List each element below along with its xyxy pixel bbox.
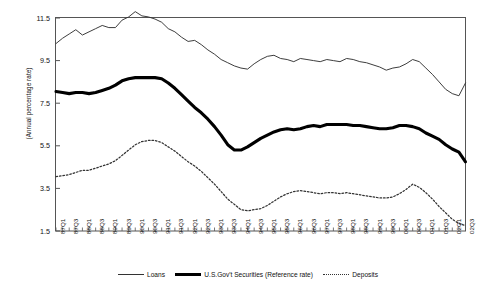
plot-area bbox=[0, 0, 482, 287]
x-axis-tick-label: 01Q1 bbox=[428, 219, 435, 234]
legend-swatch-loans bbox=[118, 271, 144, 278]
x-axis-tick-label: 91Q1 bbox=[164, 219, 171, 234]
legend-item-loans: Loans bbox=[118, 271, 165, 278]
x-axis-tick-label: 99Q1 bbox=[376, 219, 383, 234]
x-axis-tick-label: 88Q3 bbox=[98, 219, 105, 234]
x-axis-tick-label: 95Q1 bbox=[270, 219, 277, 234]
x-axis-tick-label: 00Q1 bbox=[402, 219, 409, 234]
y-axis-tick-label: 5.5 bbox=[24, 141, 50, 150]
y-axis-tick-label: 11.5 bbox=[24, 14, 50, 23]
legend-label-deposits: Deposits bbox=[352, 271, 378, 278]
x-axis-tick-label: 90Q1 bbox=[138, 219, 145, 234]
x-axis-tick-label: 01Q3 bbox=[442, 219, 449, 234]
x-axis-tick-label: 02Q1 bbox=[455, 219, 462, 234]
x-axis-tick-label: 93Q1 bbox=[217, 219, 224, 234]
y-axis-tick-label: 9.5 bbox=[24, 56, 50, 65]
legend-item-securities: U.S.Gov't Securities (Reference rate) bbox=[175, 271, 313, 278]
legend-label-loans: Loans bbox=[147, 271, 165, 278]
x-axis-tick-label: 87Q3 bbox=[72, 219, 79, 234]
x-axis-tick-label: 99Q3 bbox=[389, 219, 396, 234]
x-axis-tick-label: 91Q3 bbox=[177, 219, 184, 234]
chart-figure: (Annual percentage rate) 1.53.55.57.59.5… bbox=[0, 0, 482, 287]
x-axis-tick-label: 89Q3 bbox=[125, 219, 132, 234]
chart-legend: Loans U.S.Gov't Securities (Reference ra… bbox=[118, 266, 378, 282]
x-axis-tick-label: 00Q3 bbox=[415, 219, 422, 234]
x-axis-tick-label: 93Q3 bbox=[230, 219, 237, 234]
x-axis-tick-label: 98Q3 bbox=[362, 219, 369, 234]
legend-swatch-securities bbox=[175, 271, 201, 278]
x-axis-tick-label: 92Q3 bbox=[204, 219, 211, 234]
y-axis-tick-label: 3.5 bbox=[24, 184, 50, 193]
x-axis-tick-label: 95Q3 bbox=[283, 219, 290, 234]
x-axis-tick-label: 92Q1 bbox=[191, 219, 198, 234]
x-axis-tick-label: 02Q3 bbox=[468, 219, 475, 234]
y-axis-tick-label: 7.5 bbox=[24, 99, 50, 108]
y-axis-tick-label: 1.5 bbox=[24, 227, 50, 236]
x-axis-tick-label: 90Q3 bbox=[151, 219, 158, 234]
x-axis-tick-label: 88Q1 bbox=[85, 219, 92, 234]
legend-item-deposits: Deposits bbox=[323, 271, 378, 278]
x-axis-tick-label: 87Q1 bbox=[59, 219, 66, 234]
legend-label-securities: U.S.Gov't Securities (Reference rate) bbox=[204, 271, 313, 278]
x-axis-tick-label: 97Q3 bbox=[336, 219, 343, 234]
x-axis-tick-label: 98Q1 bbox=[349, 219, 356, 234]
legend-swatch-deposits bbox=[323, 271, 349, 278]
x-axis-tick-label: 94Q3 bbox=[257, 219, 264, 234]
x-axis-tick-label: 96Q3 bbox=[310, 219, 317, 234]
x-axis-tick-label: 97Q1 bbox=[323, 219, 330, 234]
x-axis-tick-label: 96Q1 bbox=[296, 219, 303, 234]
x-axis-tick-label: 89Q1 bbox=[111, 219, 118, 234]
x-axis-tick-label: 94Q1 bbox=[244, 219, 251, 234]
